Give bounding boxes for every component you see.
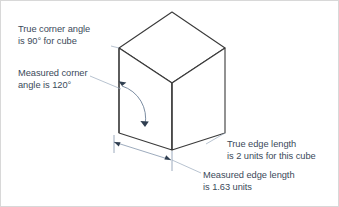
annotation-measured-edge-length-line1: Measured edge length <box>203 170 295 180</box>
measured-corner-leader-line <box>90 76 121 89</box>
annotation-true-corner-angle: True corner angle is 90° for cube <box>18 24 90 47</box>
annotation-true-corner-angle-line1: True corner angle <box>18 24 90 34</box>
measured-edge-arrow-right <box>164 155 171 160</box>
annotation-true-edge-length-line2: is 2 units for this cube <box>227 151 316 163</box>
annotation-measured-corner-angle-line1: Measured corner <box>18 68 88 78</box>
annotation-true-edge-length: True edge length is 2 units for this cub… <box>227 139 316 162</box>
annotation-measured-edge-length: Measured edge length is 1.63 units <box>203 170 295 193</box>
annotation-measured-corner-angle-line2: angle is 120° <box>18 80 88 92</box>
measured-edge-leader-line <box>172 160 201 173</box>
annotation-true-corner-angle-line2: is 90° for cube <box>18 36 90 48</box>
true-corner-leader-line <box>111 46 119 48</box>
annotation-true-edge-length-line1: True edge length <box>227 139 296 149</box>
annotation-measured-edge-length-line2: is 1.63 units <box>203 182 295 194</box>
measured-edge-arrow-left <box>114 142 121 147</box>
annotation-measured-corner-angle: Measured corner angle is 120° <box>18 68 88 91</box>
diagram-canvas: True corner angle is 90° for cube Measur… <box>0 0 339 207</box>
